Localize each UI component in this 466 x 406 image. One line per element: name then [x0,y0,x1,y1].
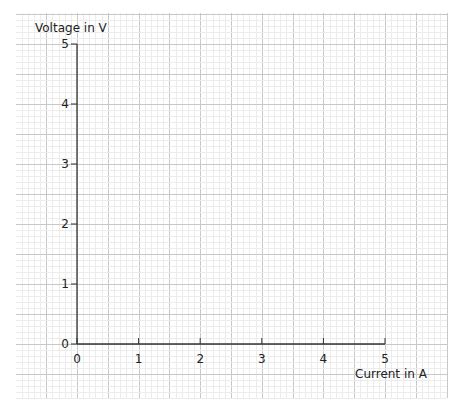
x-axis-title: Current in A [355,367,428,381]
x-tick-label: 4 [320,352,328,366]
y-tick-label: 0 [61,337,69,351]
y-tick-label: 4 [61,97,69,111]
y-tick-label: 5 [61,37,69,51]
x-tick-label: 2 [196,352,204,366]
x-tick-label: 3 [258,352,266,366]
x-tick-label: 5 [381,352,389,366]
x-tick-label: 1 [135,352,143,366]
y-axis-title: Voltage in V [35,21,108,35]
y-tick-label: 3 [61,157,69,171]
graph-paper-chart: 012345012345 Voltage in V Current in A [0,0,466,406]
grid [16,13,448,399]
x-tick-label: 0 [73,352,81,366]
y-tick-label: 1 [61,277,69,291]
y-tick-label: 2 [61,217,69,231]
